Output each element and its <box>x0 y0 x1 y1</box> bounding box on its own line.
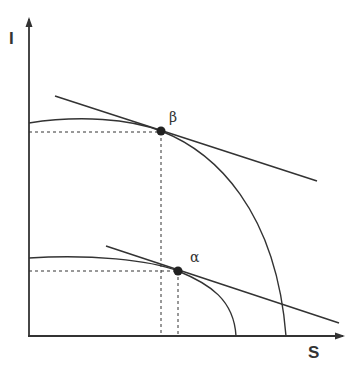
lower-tangent-line <box>106 246 339 323</box>
lower-frontier-curve <box>29 257 236 336</box>
x-axis-label: S <box>308 343 319 362</box>
beta-point <box>157 127 166 136</box>
upper-tangent-line <box>55 96 317 181</box>
beta-label: β <box>169 109 177 125</box>
alpha-label: α <box>190 249 200 265</box>
y-axis-label: I <box>9 29 14 48</box>
ppf-diagram: I S β α <box>0 0 358 372</box>
upper-frontier-curve <box>29 119 286 336</box>
alpha-point <box>174 267 183 276</box>
